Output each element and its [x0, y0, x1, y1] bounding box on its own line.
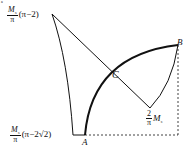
point-A-label: A	[82, 138, 88, 147]
point-B-label: B	[177, 38, 183, 47]
fraction: Ms π	[10, 126, 21, 144]
right-curve	[150, 45, 178, 108]
point-C-label: C	[112, 70, 119, 80]
fraction: Ms π	[7, 6, 18, 24]
fraction: 2 π	[146, 110, 152, 127]
diagonal-line	[52, 14, 150, 108]
label-right-lower: 2 π Ms	[146, 110, 162, 127]
left-curve	[52, 14, 73, 135]
label-top-left: Ms π (π−2)	[7, 6, 39, 24]
corner-mark: a	[1, 0, 3, 4]
label-bottom-left: Ms π (π−2√2)	[10, 126, 51, 144]
